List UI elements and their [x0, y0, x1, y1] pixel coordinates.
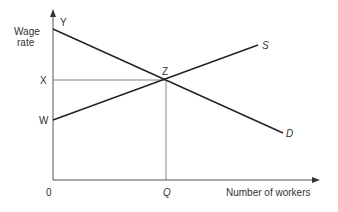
label-D: D — [286, 128, 293, 139]
y-axis-label-line2: rate — [17, 37, 35, 48]
label-S: S — [262, 40, 269, 51]
demand-curve — [53, 29, 283, 133]
label-Z: Z — [162, 66, 168, 77]
label-X: X — [40, 75, 47, 86]
label-Y: Y — [60, 17, 67, 28]
label-W: W — [39, 115, 49, 126]
origin-label: 0 — [46, 187, 52, 198]
y-axis-label-line1: Wage — [14, 26, 40, 37]
label-Q: Q — [163, 187, 171, 198]
x-axis-label: Number of workers — [226, 187, 310, 198]
supply-curve — [53, 45, 258, 120]
wage-diagram: Wage rate Y X W Z S D 0 Q Number of work… — [0, 0, 338, 212]
